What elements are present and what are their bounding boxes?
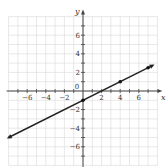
y-axis-arrow-icon <box>81 10 85 15</box>
x-tick-label: 4 <box>118 94 123 102</box>
x-tick-label: −2 <box>59 94 69 102</box>
x-tick-label: −4 <box>41 94 52 102</box>
y-tick-label: −2 <box>70 106 80 114</box>
y-axis-label: y <box>74 7 80 16</box>
data-point <box>118 80 122 84</box>
x-axis-label: x <box>161 93 166 102</box>
x-tick-label: 6 <box>137 94 142 102</box>
data-point <box>146 66 150 70</box>
coordinate-plane: −6−4−20246−6−4−2246 x y <box>0 0 167 167</box>
y-tick-label: −6 <box>70 143 81 151</box>
y-tick-label: 6 <box>76 32 81 40</box>
x-tick-label: −6 <box>22 94 33 102</box>
x-tick-label: 0 <box>75 83 79 91</box>
x-tick-label: 2 <box>99 94 103 102</box>
y-tick-label: 4 <box>76 50 81 58</box>
y-tick-label: 2 <box>76 69 80 77</box>
data-point <box>81 99 85 103</box>
y-tick-label: −4 <box>70 125 81 133</box>
